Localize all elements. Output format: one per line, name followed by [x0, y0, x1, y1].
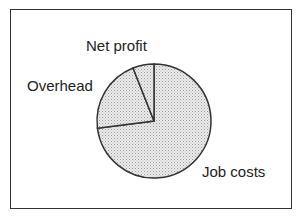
pie-chart [0, 0, 302, 218]
label-overhead: Overhead [27, 78, 93, 93]
label-job-costs: Job costs [202, 164, 265, 179]
label-net-profit: Net profit [86, 38, 147, 53]
